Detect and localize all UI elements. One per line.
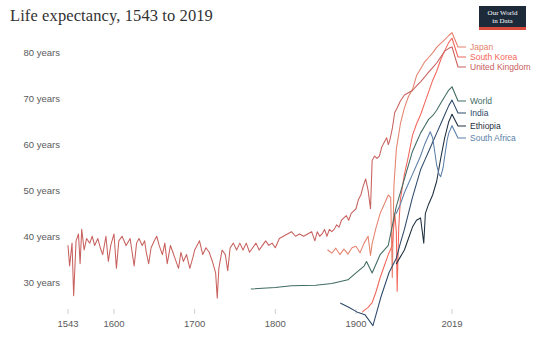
legend-label-japan[interactable]: Japan bbox=[470, 42, 493, 52]
x-tick-label: 2019 bbox=[441, 318, 462, 329]
y-tick-label: 70 years bbox=[24, 93, 61, 104]
x-tick-label: 1900 bbox=[345, 318, 366, 329]
legend-connector-south-africa bbox=[452, 126, 466, 138]
legend-label-ethiopia[interactable]: Ethiopia bbox=[470, 121, 501, 131]
legend-connector-world bbox=[452, 87, 466, 101]
x-tick-label: 1700 bbox=[184, 318, 205, 329]
legend-label-india[interactable]: India bbox=[470, 108, 489, 118]
legend-connector-ethiopia bbox=[452, 114, 466, 126]
legend: JapanSouth KoreaUnited KingdomWorldIndia… bbox=[452, 33, 530, 143]
series-line-ethiopia bbox=[396, 114, 452, 263]
series-line-south-africa bbox=[396, 126, 452, 214]
y-tick-label: 80 years bbox=[24, 47, 61, 58]
y-tick-label: 30 years bbox=[24, 277, 61, 288]
legend-label-south-africa[interactable]: South Africa bbox=[470, 133, 516, 143]
plot-series bbox=[68, 33, 452, 326]
series-line-japan bbox=[328, 33, 452, 278]
legend-label-south-korea[interactable]: South Korea bbox=[470, 52, 518, 62]
legend-label-world[interactable]: World bbox=[470, 96, 492, 106]
x-tick-label: 1543 bbox=[57, 318, 78, 329]
legend-connector-india bbox=[452, 100, 466, 113]
y-axis: 30 years40 years50 years60 years70 years… bbox=[24, 47, 61, 287]
y-tick-label: 40 years bbox=[24, 231, 61, 242]
series-line-south-korea bbox=[362, 38, 452, 312]
series-line-world bbox=[251, 87, 452, 289]
life-expectancy-line-chart: 30 years40 years50 years60 years70 years… bbox=[0, 0, 534, 347]
y-tick-label: 50 years bbox=[24, 185, 61, 196]
y-tick-label: 60 years bbox=[24, 139, 61, 150]
x-tick-label: 1800 bbox=[265, 318, 286, 329]
x-tick-label: 1600 bbox=[103, 318, 124, 329]
legend-label-united-kingdom[interactable]: United Kingdom bbox=[470, 62, 530, 72]
x-axis: 154316001700180019002019 bbox=[57, 309, 462, 329]
